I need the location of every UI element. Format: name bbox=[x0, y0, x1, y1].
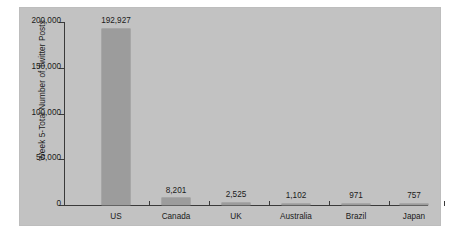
y-axis-line bbox=[64, 22, 65, 206]
y-axis-title: Week 5-Total Number of Twitter Posts bbox=[38, 6, 47, 176]
x-tick-mark bbox=[149, 201, 150, 206]
bar-uk[interactable] bbox=[222, 203, 250, 205]
y-tick-label: 200,000 bbox=[31, 16, 61, 25]
bar-value-australia: 1,102 bbox=[268, 191, 324, 200]
bar-japan[interactable] bbox=[400, 204, 428, 205]
bar-value-uk: 2,525 bbox=[208, 190, 264, 199]
bar-value-us: 192,927 bbox=[88, 16, 144, 25]
bar-value-japan: 757 bbox=[386, 191, 442, 200]
x-category-label-brazil: Brazil bbox=[328, 212, 384, 221]
bar-us[interactable] bbox=[102, 29, 130, 206]
x-tick-mark bbox=[444, 201, 445, 206]
x-tick-mark bbox=[329, 201, 330, 206]
y-tick-label: 0 bbox=[56, 199, 61, 208]
x-axis-line bbox=[64, 205, 428, 206]
x-tick-mark bbox=[209, 201, 210, 206]
x-category-label-canada: Canada bbox=[148, 212, 204, 221]
bar-australia[interactable] bbox=[282, 204, 310, 206]
bar-value-canada: 8,201 bbox=[148, 186, 204, 195]
bar-canada[interactable] bbox=[162, 198, 190, 206]
y-tick-label: 150,000 bbox=[31, 62, 61, 71]
chart-panel: Week 5-Total Number of Twitter Posts 200… bbox=[20, 8, 440, 225]
x-tick-mark bbox=[269, 201, 270, 206]
x-category-label-japan: Japan bbox=[386, 212, 442, 221]
x-tick-mark bbox=[389, 201, 390, 206]
y-tick-label: 50,000 bbox=[36, 153, 61, 162]
plot-area: 200,000 150,000 100,000 50,000 0 bbox=[64, 22, 428, 206]
x-category-label-uk: UK bbox=[208, 212, 264, 221]
x-category-label-australia: Australia bbox=[268, 212, 324, 221]
bar-value-brazil: 971 bbox=[328, 191, 384, 200]
y-tick-label: 100,000 bbox=[31, 108, 61, 117]
x-category-label-us: US bbox=[88, 212, 144, 221]
bar-brazil[interactable] bbox=[342, 204, 370, 205]
